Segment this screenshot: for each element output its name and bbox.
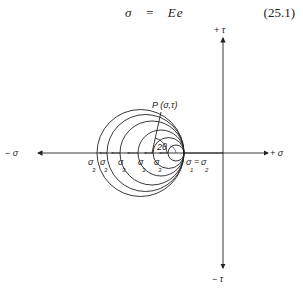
svg-text:=: = xyxy=(194,156,199,166)
svg-text:σ: σ xyxy=(100,157,106,167)
svg-text:σ: σ xyxy=(88,157,94,167)
point-p-label: P (σ,τ) xyxy=(152,100,177,110)
pos-sigma-label: + σ xyxy=(270,148,284,158)
svg-text:σ: σ xyxy=(186,157,192,167)
svg-text:σ: σ xyxy=(118,157,124,167)
mohr-circle-diagram: + σ − σ + τ − τ P (σ,τ) 2θ σ3 σ3 σ3 σ3 σ… xyxy=(0,0,303,289)
neg-sigma-label: − σ xyxy=(5,148,19,158)
svg-text:3: 3 xyxy=(104,167,108,173)
neg-tau-label: − τ xyxy=(212,274,224,284)
svg-text:σ: σ xyxy=(154,157,160,167)
svg-text:1: 1 xyxy=(190,167,193,173)
pos-tau-label: + τ xyxy=(214,25,226,35)
svg-text:σ: σ xyxy=(138,157,144,167)
angle-label: 2θ xyxy=(156,142,167,152)
svg-text:3: 3 xyxy=(158,167,162,173)
sigma3-labels: σ3 σ3 σ3 σ3 σ3 xyxy=(88,157,162,173)
svg-text:3: 3 xyxy=(92,167,96,173)
sigma1-equals-sigma2-label: σ1 = σ2 xyxy=(186,156,209,173)
svg-text:σ: σ xyxy=(201,157,207,167)
svg-text:2: 2 xyxy=(204,167,209,173)
